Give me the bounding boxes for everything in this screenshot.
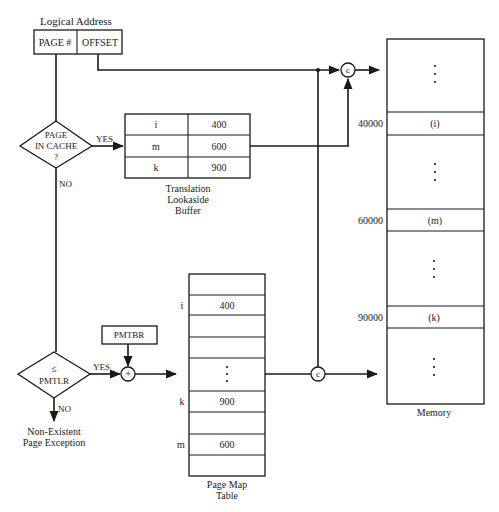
tlb-frame: 600	[212, 141, 227, 152]
logical-address-title: Logical Address	[40, 15, 112, 27]
decision-text: ≤	[51, 363, 57, 374]
concat-top: c	[341, 63, 355, 77]
page-in-cache-decision: PAGE IN CACHE ?	[20, 121, 92, 168]
concat-bottom: c	[311, 367, 325, 381]
ellipsis-dot	[226, 366, 228, 368]
yes-label: YES	[96, 134, 113, 144]
ellipsis-dot	[226, 380, 228, 382]
page-map-table: i 400 k 900 m 600 Page Map Table	[177, 274, 265, 501]
decision-text: IN CACHE	[35, 141, 78, 151]
pmt-row-label: k	[180, 396, 185, 407]
pmtlr-decision: ≤ PMTLR	[18, 352, 90, 398]
page-number-field: PAGE #	[39, 37, 72, 48]
yes-label: YES	[93, 362, 110, 372]
pmt-row-label: m	[177, 439, 185, 450]
pmtbr-label: PMTBR	[114, 330, 145, 340]
no-label: NO	[58, 404, 71, 414]
tlb-frame: 400	[212, 119, 227, 130]
ellipsis-dot	[433, 260, 435, 262]
concat-symbol: c	[346, 65, 350, 75]
memory-address: 40000	[358, 118, 383, 129]
decision-text: ?	[54, 152, 58, 162]
ellipsis-dot	[433, 276, 435, 278]
memory-address: 90000	[358, 312, 383, 323]
pmt-caption: Page Map	[207, 479, 247, 490]
pmt-value: 600	[220, 439, 235, 450]
pmtbr-register: PMTBR	[102, 326, 157, 344]
memory-caption: Memory	[417, 407, 451, 418]
tlb-output-path	[250, 79, 348, 146]
ellipsis-dot	[226, 373, 228, 375]
concat-symbol: c	[316, 369, 320, 379]
ellipsis-dot	[433, 366, 435, 368]
adder-symbol: +	[125, 368, 131, 379]
memory-block-label: (k)	[428, 312, 440, 324]
pmt-caption: Table	[216, 490, 239, 501]
offset-field: OFFSET	[82, 37, 118, 48]
pmt-row-label: i	[181, 300, 184, 311]
ellipsis-dot	[433, 374, 435, 376]
ellipsis-dot	[434, 179, 436, 181]
ellipsis-dot	[433, 358, 435, 360]
paging-translation-diagram: Logical Address PAGE # OFFSET PAGE IN CA…	[0, 0, 499, 512]
memory: 40000 (i) 60000 (m) 90000 (k) Memory	[358, 39, 484, 418]
exception-label: Page Exception	[23, 437, 85, 448]
ellipsis-dot	[434, 81, 436, 83]
memory-address: 60000	[358, 215, 383, 226]
tlb-page: m	[152, 141, 160, 152]
adder: +	[121, 367, 135, 381]
tlb-caption: Buffer	[175, 205, 202, 216]
decision-text: PMTLR	[39, 376, 69, 386]
memory-block-label: (i)	[430, 118, 439, 130]
no-label: NO	[59, 179, 72, 189]
logical-address: Logical Address PAGE # OFFSET	[34, 15, 122, 54]
ellipsis-dot	[433, 268, 435, 270]
tlb-caption: Translation	[165, 183, 210, 194]
decision-text: PAGE	[45, 130, 68, 140]
tlb-page: k	[154, 162, 159, 173]
tlb-caption: Lookaside	[167, 194, 209, 205]
tlb-frame: 900	[212, 162, 227, 173]
exception-label: Non-Existent	[27, 426, 81, 437]
pmt-value: 900	[220, 396, 235, 407]
translation-lookaside-buffer: i 400 m 600 k 900 Translation Lookaside …	[125, 114, 250, 216]
ellipsis-dot	[434, 65, 436, 67]
ellipsis-dot	[434, 171, 436, 173]
pmt-value: 400	[220, 300, 235, 311]
tlb-page: i	[155, 119, 158, 130]
offset-path	[98, 54, 339, 70]
ellipsis-dot	[434, 73, 436, 75]
decision-diamond	[18, 352, 90, 398]
memory-block-label: (m)	[428, 215, 442, 227]
ellipsis-dot	[434, 163, 436, 165]
